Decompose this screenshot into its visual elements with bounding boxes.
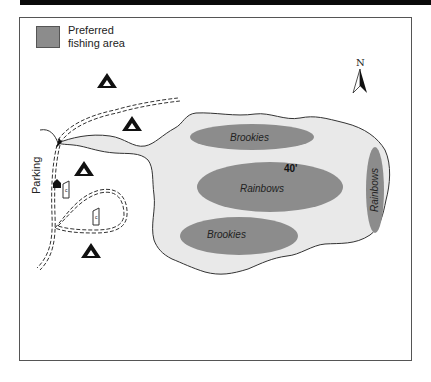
- tent-icon: [97, 73, 117, 88]
- tent-icon: [122, 116, 142, 131]
- depth-label: 40': [284, 163, 298, 174]
- compass-arrow-icon: [353, 69, 367, 93]
- map-canvas: Brookies Rainbows Brookies Rainbows 40' …: [0, 0, 431, 382]
- compass-north-label: N: [356, 57, 365, 68]
- parking-label: Parking: [30, 157, 42, 194]
- tent-icon: [74, 161, 94, 176]
- stream: [40, 130, 58, 143]
- outhouse-icon: c: [93, 208, 99, 225]
- label-brookies-bottom: Brookies: [207, 229, 246, 240]
- house-icon: [53, 179, 61, 188]
- outhouse-icon: c: [63, 181, 69, 198]
- tent-icon: [81, 243, 101, 258]
- label-rainbows-right: Rainbows: [369, 168, 380, 212]
- label-rainbows-center: Rainbows: [240, 183, 284, 194]
- label-brookies-top: Brookies: [230, 132, 269, 143]
